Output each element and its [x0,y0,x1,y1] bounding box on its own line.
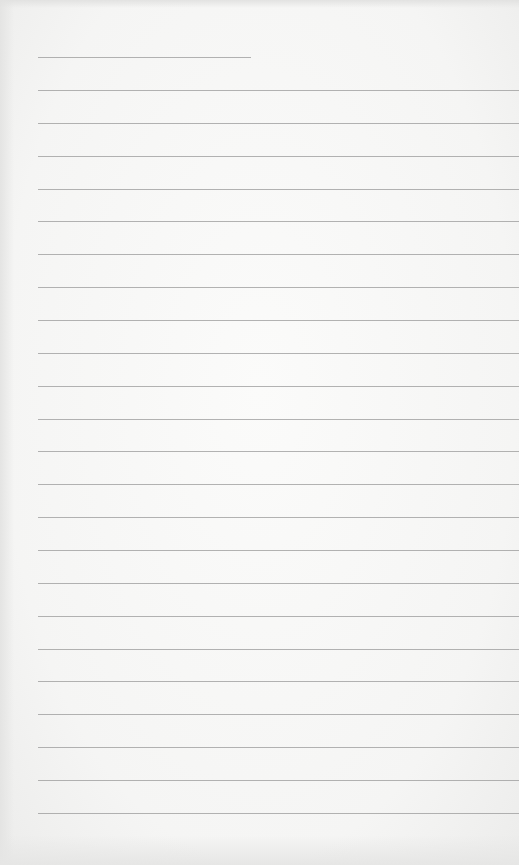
ruled-line [38,813,519,814]
lined-paper [0,0,519,865]
ruled-line [38,616,519,617]
ruled-line [38,484,519,485]
ruled-line [38,320,519,321]
paper-shadow-bottom [0,835,519,865]
ruled-line [38,189,519,190]
ruled-line [38,517,519,518]
ruled-line [38,419,519,420]
ruled-line [38,649,519,650]
ruled-line [38,123,519,124]
ruled-line [38,254,519,255]
ruled-line [38,386,519,387]
paper-shadow-left [0,0,14,865]
ruled-line [38,451,519,452]
short-header-line [38,57,251,58]
ruled-line [38,156,519,157]
ruled-line [38,780,519,781]
paper-shadow-top [0,0,519,8]
ruled-line [38,353,519,354]
ruled-line [38,550,519,551]
ruled-line [38,747,519,748]
ruled-line [38,681,519,682]
ruled-line [38,583,519,584]
ruled-line [38,90,519,91]
ruled-line [38,221,519,222]
ruled-line [38,714,519,715]
ruled-line [38,287,519,288]
